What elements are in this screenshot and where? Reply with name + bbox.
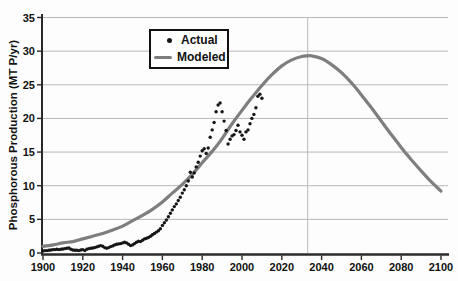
- actual-data-point: [163, 221, 166, 224]
- actual-data-point: [181, 191, 184, 194]
- legend-label-modeled: Modeled: [177, 51, 226, 64]
- x-tick-label: 2020: [270, 261, 294, 273]
- y-axis-label: Phosphorous Production (MT P/yr): [7, 40, 19, 230]
- y-tick-label: 15: [23, 146, 35, 158]
- actual-data-point: [240, 134, 243, 137]
- y-tick-label: 30: [23, 45, 35, 57]
- actual-data-point: [218, 101, 221, 104]
- actual-data-point: [228, 138, 231, 141]
- x-tick-label: 1980: [190, 261, 214, 273]
- modeled-line-marker-icon: [154, 56, 172, 59]
- actual-data-point: [222, 119, 225, 122]
- actual-data-point: [197, 161, 200, 164]
- actual-data-point: [214, 110, 217, 113]
- actual-data-point: [236, 124, 239, 127]
- actual-data-point: [159, 227, 162, 230]
- legend-item-modeled: Modeled: [151, 50, 227, 65]
- actual-data-point: [199, 154, 202, 157]
- legend-label-actual: Actual: [181, 34, 218, 47]
- actual-data-point: [175, 202, 178, 205]
- actual-data-point: [193, 171, 196, 174]
- actual-data-point: [250, 117, 253, 120]
- chart-canvas: 0510152025303519001920194019601980200020…: [0, 0, 458, 281]
- x-tick-label: 2080: [389, 261, 413, 273]
- actual-data-point: [246, 128, 249, 131]
- y-tick-label: 25: [23, 79, 35, 91]
- x-tick-label: 1900: [31, 261, 55, 273]
- actual-data-point: [177, 199, 180, 202]
- actual-data-point: [260, 97, 263, 100]
- actual-data-point: [248, 122, 251, 125]
- actual-data-point: [238, 130, 241, 133]
- actual-data-point: [234, 129, 237, 132]
- x-tick-label: 1920: [71, 261, 95, 273]
- actual-data-point: [224, 129, 227, 132]
- phosphorus-production-chart: 0510152025303519001920194019601980200020…: [0, 0, 458, 281]
- actual-data-point: [183, 188, 186, 191]
- y-tick-label: 0: [29, 247, 35, 259]
- x-tick-label: 1940: [110, 261, 134, 273]
- actual-data-point: [173, 205, 176, 208]
- actual-data-point: [189, 171, 192, 174]
- actual-data-point: [195, 165, 198, 168]
- actual-data-point: [165, 218, 168, 221]
- actual-data-point: [207, 146, 210, 149]
- actual-data-point: [191, 175, 194, 178]
- y-tick-label: 10: [23, 180, 35, 192]
- actual-data-point: [209, 136, 212, 139]
- x-tick-label: 1960: [150, 261, 174, 273]
- actual-data-point: [161, 224, 164, 227]
- actual-data-point: [169, 212, 172, 215]
- actual-data-point: [211, 128, 214, 131]
- actual-data-point: [242, 138, 245, 141]
- actual-data-point: [258, 93, 261, 96]
- actual-data-point: [171, 208, 174, 211]
- actual-data-point: [185, 184, 188, 187]
- y-tick-label: 35: [23, 12, 35, 24]
- actual-dot-marker-icon: [167, 38, 172, 43]
- actual-data-point: [167, 215, 170, 218]
- modeled-curve: [43, 56, 441, 247]
- x-tick-label: 2040: [309, 261, 333, 273]
- actual-data-point: [252, 113, 255, 116]
- legend: Actual Modeled: [149, 29, 229, 69]
- actual-data-point: [187, 179, 190, 182]
- actual-data-point: [203, 147, 206, 150]
- actual-data-point: [220, 110, 223, 113]
- actual-data-point: [254, 106, 257, 109]
- actual-data-point: [205, 152, 208, 155]
- actual-data-point: [212, 121, 215, 124]
- x-tick-label: 2060: [349, 261, 373, 273]
- x-tick-label: 2000: [230, 261, 254, 273]
- y-tick-label: 5: [29, 213, 35, 225]
- actual-data-point: [226, 142, 229, 145]
- legend-item-actual: Actual: [151, 33, 227, 48]
- actual-data-point: [179, 196, 182, 199]
- y-tick-label: 20: [23, 112, 35, 124]
- x-tick-label: 2100: [429, 261, 453, 273]
- actual-data-point: [232, 133, 235, 136]
